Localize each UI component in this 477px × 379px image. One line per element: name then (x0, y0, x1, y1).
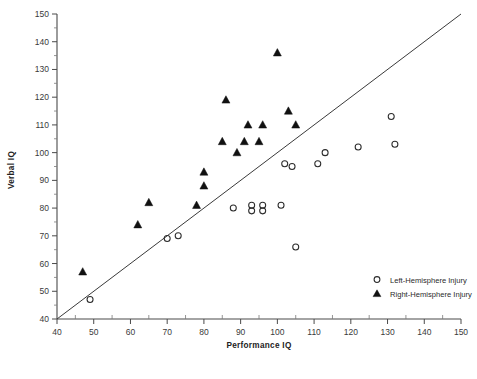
legend-label-left-hemisphere: Left-Hemisphere Injury (390, 276, 467, 285)
data-point-filled-triangle (218, 137, 226, 144)
data-point-open-circle (392, 141, 398, 147)
y-tick-label: 50 (40, 286, 50, 296)
chart-canvas: 405060708090100110120130140150 405060708… (0, 0, 477, 379)
x-tick-label: 110 (307, 327, 321, 337)
x-tick-label: 80 (199, 327, 209, 337)
x-tick-label: 150 (454, 327, 468, 337)
y-axis-ticks: 405060708090100110120130140150 (35, 9, 57, 324)
data-point-open-circle (175, 233, 181, 239)
data-point-open-circle (164, 236, 170, 242)
data-point-filled-triangle (284, 107, 292, 114)
x-tick-label: 60 (126, 327, 136, 337)
y-axis-title: Verbal IQ (7, 151, 16, 190)
y-tick-label: 70 (40, 231, 50, 241)
x-tick-label: 70 (162, 327, 172, 337)
y-tick-label: 40 (40, 314, 50, 324)
x-tick-label: 100 (270, 327, 284, 337)
data-point-filled-triangle (240, 137, 248, 144)
data-point-filled-triangle (134, 221, 142, 228)
data-point-open-circle (278, 202, 284, 208)
y-tick-label: 120 (35, 92, 49, 102)
x-axis-title: Performance IQ (226, 341, 292, 350)
data-point-filled-triangle (273, 49, 281, 56)
x-tick-label: 130 (380, 327, 394, 337)
legend-item-left-hemisphere: Left-Hemisphere Injury (374, 276, 467, 285)
x-tick-label: 90 (236, 327, 246, 337)
chart-legend: Left-Hemisphere Injury Right-Hemisphere … (373, 276, 472, 299)
y-tick-label: 130 (35, 64, 49, 74)
series-right-hemisphere-injury (79, 49, 300, 275)
data-point-filled-triangle (222, 96, 230, 103)
data-point-open-circle (289, 164, 295, 170)
x-tick-label: 40 (52, 327, 62, 337)
data-point-open-circle (230, 205, 236, 211)
data-point-open-circle (87, 297, 93, 303)
y-tick-label: 140 (35, 37, 49, 47)
data-point-filled-triangle (200, 182, 208, 189)
data-point-filled-triangle (145, 198, 153, 205)
data-point-filled-triangle (233, 148, 241, 155)
x-tick-label: 120 (344, 327, 358, 337)
x-axis-ticks: 405060708090100110120130140150 (52, 315, 468, 337)
y-tick-label: 90 (40, 175, 50, 185)
y-tick-label: 80 (40, 203, 50, 213)
identity-reference-line (57, 14, 461, 319)
data-point-filled-triangle (259, 121, 267, 128)
data-point-filled-triangle (255, 137, 263, 144)
legend-label-right-hemisphere: Right-Hemisphere Injury (390, 290, 472, 299)
filled-triangle-icon (373, 290, 381, 297)
x-tick-label: 140 (417, 327, 431, 337)
open-circle-icon (374, 277, 380, 283)
data-point-open-circle (282, 161, 288, 167)
data-point-filled-triangle (79, 268, 87, 275)
scatter-plot-figure: 405060708090100110120130140150 405060708… (0, 0, 477, 379)
y-tick-label: 150 (35, 9, 49, 19)
data-point-filled-triangle (244, 121, 252, 128)
data-point-open-circle (388, 114, 394, 120)
data-point-filled-triangle (200, 168, 208, 175)
y-tick-label: 100 (35, 148, 49, 158)
data-point-filled-triangle (193, 201, 201, 208)
x-tick-label: 50 (89, 327, 99, 337)
y-tick-label: 110 (35, 120, 49, 130)
data-point-open-circle (315, 161, 321, 167)
legend-item-right-hemisphere: Right-Hemisphere Injury (373, 290, 472, 299)
data-point-filled-triangle (292, 121, 300, 128)
data-point-open-circle (293, 244, 299, 250)
y-tick-label: 60 (40, 259, 50, 269)
data-point-open-circle (322, 150, 328, 156)
data-point-open-circle (355, 144, 361, 150)
